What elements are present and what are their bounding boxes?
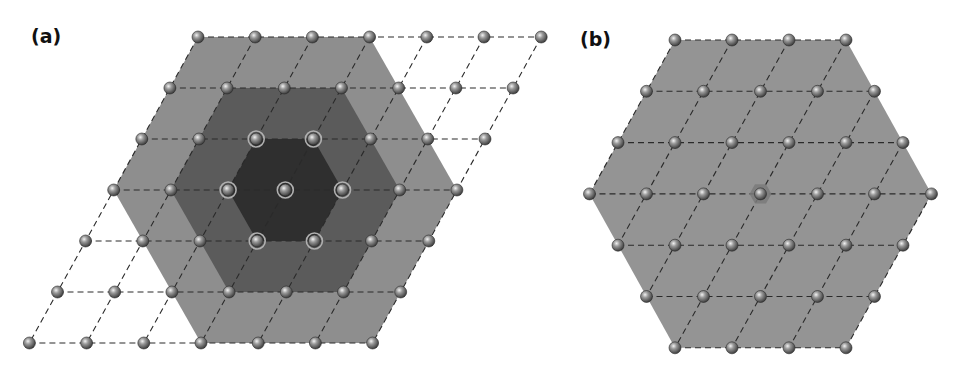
atom-icon — [221, 82, 233, 94]
atom-icon — [507, 82, 519, 94]
atom-icon — [222, 184, 234, 196]
atom-icon — [698, 291, 710, 303]
atom-icon — [393, 82, 405, 94]
atom-icon — [192, 31, 204, 43]
atom-icon — [669, 137, 681, 149]
atom-icon — [669, 342, 681, 354]
atom-icon — [840, 342, 852, 354]
atom-icon — [698, 188, 710, 200]
atom-icon — [137, 235, 149, 247]
atom-icon — [755, 85, 767, 97]
atom-icon — [584, 188, 596, 200]
atom-icon — [812, 291, 824, 303]
atom-icon — [926, 188, 938, 200]
atom-icon — [869, 188, 881, 200]
atom-icon — [897, 137, 909, 149]
atom-icon — [450, 82, 462, 94]
panel-a-lattice — [23, 31, 547, 349]
atom-icon — [755, 188, 767, 200]
atom-icon — [869, 85, 881, 97]
atom-icon — [249, 31, 261, 43]
atom-icon — [840, 239, 852, 251]
atom-icon — [395, 286, 407, 298]
atom-icon — [279, 184, 291, 196]
atom-icon — [612, 239, 624, 251]
atom-icon — [641, 85, 653, 97]
atom-icon — [641, 291, 653, 303]
atom-icon — [840, 137, 852, 149]
atom-icon — [252, 337, 264, 349]
atom-icon — [783, 239, 795, 251]
lattice-figure — [0, 0, 959, 375]
atom-icon — [309, 337, 321, 349]
atom-icon — [365, 133, 377, 145]
atom-icon — [479, 133, 491, 145]
atom-icon — [726, 239, 738, 251]
atom-icon — [307, 133, 319, 145]
atom-icon — [308, 235, 320, 247]
atom-icon — [223, 286, 235, 298]
atom-icon — [164, 82, 176, 94]
atom-icon — [869, 291, 881, 303]
atom-icon — [812, 85, 824, 97]
atom-icon — [194, 235, 206, 247]
atom-icon — [165, 184, 177, 196]
atom-icon — [423, 235, 435, 247]
atom-icon — [726, 34, 738, 46]
atom-icon — [367, 337, 379, 349]
atom-icon — [535, 31, 547, 43]
panel-b-lattice — [584, 34, 938, 354]
atom-icon — [612, 137, 624, 149]
atom-icon — [783, 34, 795, 46]
atom-icon — [23, 337, 35, 349]
atom-icon — [366, 235, 378, 247]
atom-icon — [669, 34, 681, 46]
atom-icon — [421, 31, 433, 43]
atom-icon — [422, 133, 434, 145]
atom-icon — [451, 184, 463, 196]
atom-icon — [166, 286, 178, 298]
atom-icon — [81, 337, 93, 349]
atom-icon — [336, 82, 348, 94]
atom-icon — [251, 235, 263, 247]
atom-icon — [278, 82, 290, 94]
atom-icon — [80, 235, 92, 247]
atom-icon — [726, 342, 738, 354]
atom-icon — [755, 291, 767, 303]
atom-icon — [840, 34, 852, 46]
atom-icon — [783, 342, 795, 354]
atom-icon — [138, 337, 150, 349]
atom-icon — [641, 188, 653, 200]
atom-icon — [364, 31, 376, 43]
atom-icon — [52, 286, 64, 298]
atom-icon — [698, 85, 710, 97]
atom-icon — [109, 286, 121, 298]
atom-icon — [195, 337, 207, 349]
atom-icon — [478, 31, 490, 43]
atom-icon — [669, 239, 681, 251]
atom-icon — [280, 286, 292, 298]
atom-icon — [337, 184, 349, 196]
atom-icon — [812, 188, 824, 200]
atom-icon — [338, 286, 350, 298]
atom-icon — [136, 133, 148, 145]
atom-icon — [306, 31, 318, 43]
atom-icon — [897, 239, 909, 251]
atom-icon — [394, 184, 406, 196]
atom-icon — [783, 137, 795, 149]
atom-icon — [108, 184, 120, 196]
atom-icon — [726, 137, 738, 149]
atom-icon — [250, 133, 262, 145]
atom-icon — [193, 133, 205, 145]
